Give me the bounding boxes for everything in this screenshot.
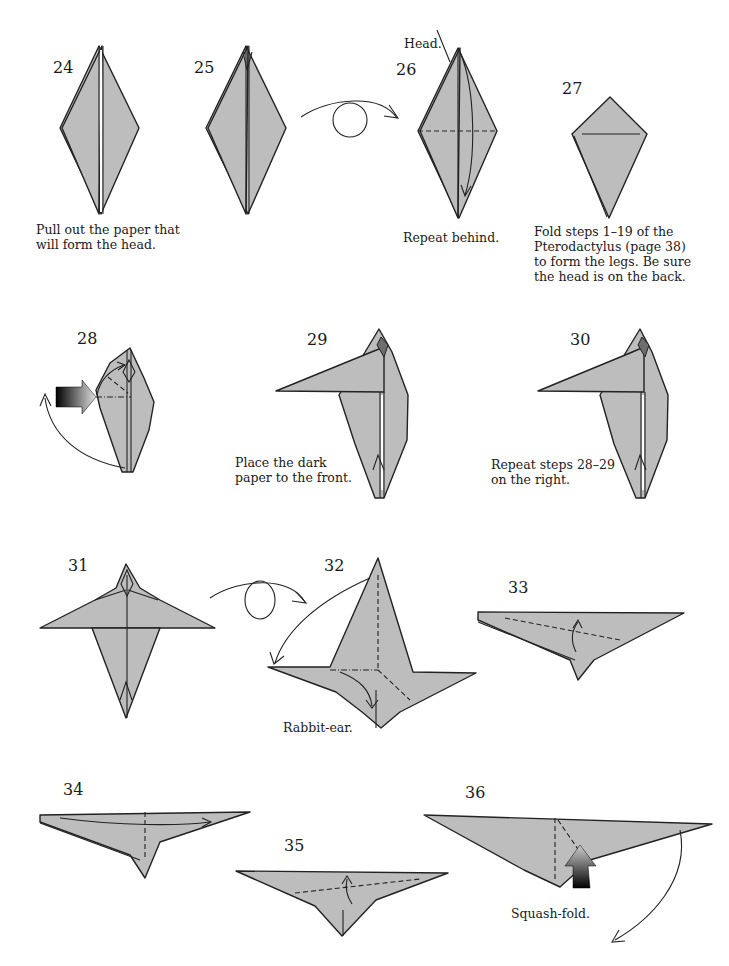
step-29-diagram: [276, 329, 408, 498]
step-36-diagram: [424, 815, 712, 942]
step-35-diagram: [236, 871, 448, 936]
step-28-diagram: [40, 348, 154, 472]
step-34-diagram: [40, 812, 250, 878]
step-27-diagram: [572, 97, 647, 218]
step-30-diagram: [538, 329, 668, 498]
turn-over-arrow-1: [301, 101, 398, 137]
step-31-diagram: [40, 564, 215, 718]
step-26-diagram: [418, 30, 497, 218]
step-25-diagram: [206, 46, 286, 214]
step-32-diagram: [268, 558, 476, 728]
step-33-diagram: [478, 612, 684, 680]
turn-over-arrow-2: [210, 581, 306, 619]
step-24-diagram: [60, 46, 139, 214]
diagram-canvas: [0, 0, 729, 966]
